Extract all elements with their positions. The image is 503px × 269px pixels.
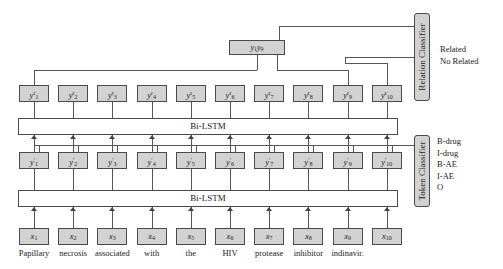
token-node-4: y′4 xyxy=(137,152,167,169)
arrow-token-to-bilstm-10 xyxy=(384,135,390,139)
relation-node-5: yr5 xyxy=(176,85,206,102)
wire-y10-into-classifier xyxy=(345,57,414,58)
wire-token-tap-4 xyxy=(157,145,158,152)
wire-y9-into-combo xyxy=(277,55,278,70)
wire-token-bus xyxy=(34,145,422,146)
bilstm-upper: Bi-LSTM xyxy=(18,118,398,135)
bilstm-lower: Bi-LSTM xyxy=(18,190,398,207)
arrow-token-to-bilstm-2 xyxy=(70,135,76,139)
arrow-input-to-bilstm-3 xyxy=(109,207,115,211)
wire-y10-right xyxy=(345,63,387,64)
word-label-6: HIV xyxy=(222,248,237,258)
wire-bilstm-to-token-8 xyxy=(308,169,309,190)
wire-y1-into-combo xyxy=(257,55,258,70)
wire-token-tap-7 xyxy=(274,145,275,152)
wire-y1-right xyxy=(34,70,257,71)
wire-token-tap-5 xyxy=(196,145,197,152)
diagram-canvas: y1y9 yr1yr2yr3yr4yr5yr6yr7yr8yr9yr10 Bi-… xyxy=(0,0,503,269)
input-node-9: x9 xyxy=(333,228,363,245)
wire-y9-right xyxy=(277,70,348,71)
token-classifier-box: Token Classifier xyxy=(414,135,430,207)
token-output-1: B-drug xyxy=(437,136,461,148)
relation-classifier-outputs: RelatedNo Related xyxy=(440,44,478,67)
wire-token-tap-2 xyxy=(78,145,79,152)
wire-token-tap-6 xyxy=(235,145,236,152)
relation-node-9: yr9 xyxy=(333,85,363,102)
wire-bilstm-to-token-3 xyxy=(112,169,113,190)
word-label-8: inhibitor xyxy=(294,248,323,258)
relation-classifier-box: Relation Classifier xyxy=(414,13,430,101)
word-label-2: necrosis xyxy=(59,248,87,258)
token-output-4: I-AE xyxy=(437,171,461,183)
wire-combo-right xyxy=(279,26,422,27)
arrow-input-to-bilstm-9 xyxy=(345,207,351,211)
relation-node-10: yr10 xyxy=(372,85,402,102)
relation-node-1: yr1 xyxy=(19,85,49,102)
wire-token-tap-9 xyxy=(353,145,354,152)
arrow-token-to-bilstm-5 xyxy=(188,135,194,139)
wire-bilstm-to-relation-5 xyxy=(191,102,192,118)
arrow-token-to-bilstm-4 xyxy=(149,135,155,139)
arrow-token-to-bilstm-9 xyxy=(345,135,351,139)
input-node-5: x5 xyxy=(176,228,206,245)
wire-bilstm-to-relation-2 xyxy=(73,102,74,118)
wire-bilstm-to-token-5 xyxy=(191,169,192,190)
arrow-input-to-bilstm-5 xyxy=(188,207,194,211)
wire-y10-up xyxy=(387,63,388,85)
word-label-1: Papillary xyxy=(19,248,50,258)
relation-output-1: Related xyxy=(440,44,478,56)
relation-node-2: yr2 xyxy=(58,85,88,102)
wire-bilstm-to-relation-7 xyxy=(269,102,270,118)
input-node-6: x6 xyxy=(215,228,245,245)
word-label-5: the xyxy=(186,248,196,258)
word-label-7: protease xyxy=(255,248,283,258)
token-classifier-outputs: B-drugI-drugB-AEI-AEO xyxy=(437,136,461,194)
arrow-token-to-bilstm-8 xyxy=(305,135,311,139)
wire-bilstm-to-relation-8 xyxy=(308,102,309,118)
arrow-input-to-bilstm-10 xyxy=(384,207,390,211)
wire-bilstm-to-relation-10 xyxy=(387,102,388,118)
input-node-7: x7 xyxy=(254,228,284,245)
wire-token-tap-3 xyxy=(117,145,118,152)
arrow-token-to-bilstm-6 xyxy=(227,135,233,139)
arrow-token-to-bilstm-3 xyxy=(109,135,115,139)
wire-y1-up xyxy=(34,70,35,85)
token-classifier-label: Token Classifier xyxy=(417,141,427,200)
arrow-input-to-bilstm-1 xyxy=(31,207,37,211)
token-output-5: O xyxy=(437,182,461,194)
wire-bilstm-to-token-2 xyxy=(73,169,74,190)
relation-classifier-label: Relation Classifier xyxy=(417,23,427,90)
combined-entity-node: y1y9 xyxy=(229,40,285,55)
word-label-9: indinavir. xyxy=(331,248,363,258)
input-node-3: x3 xyxy=(97,228,127,245)
arrow-input-to-bilstm-4 xyxy=(149,207,155,211)
wire-combo-up xyxy=(279,26,280,40)
relation-node-3: yr3 xyxy=(97,85,127,102)
relation-node-4: yr4 xyxy=(137,85,167,102)
token-node-1: y′1 xyxy=(19,152,49,169)
wire-bilstm-to-relation-4 xyxy=(152,102,153,118)
token-output-3: B-AE xyxy=(437,159,461,171)
token-output-2: I-drug xyxy=(437,148,461,160)
relation-node-7: yr7 xyxy=(254,85,284,102)
input-node-4: x4 xyxy=(137,228,167,245)
relation-node-8: yr8 xyxy=(293,85,323,102)
arrow-token-to-bilstm-1 xyxy=(31,135,37,139)
wire-token-tap-10 xyxy=(392,145,393,152)
word-label-4: with xyxy=(144,248,159,258)
token-node-5: y′5 xyxy=(176,152,206,169)
input-node-10: x10 xyxy=(372,228,402,245)
word-label-3: associated xyxy=(95,248,130,258)
wire-bilstm-to-token-6 xyxy=(230,169,231,190)
wire-bilstm-to-token-4 xyxy=(152,169,153,190)
token-node-7: y′7 xyxy=(254,152,284,169)
token-node-2: y′2 xyxy=(58,152,88,169)
relation-output-2: No Related xyxy=(440,56,478,68)
relation-node-6: yr6 xyxy=(215,85,245,102)
token-node-10: y′10 xyxy=(372,152,402,169)
arrow-input-to-bilstm-7 xyxy=(266,207,272,211)
arrow-input-to-bilstm-2 xyxy=(70,207,76,211)
token-node-8: y′8 xyxy=(293,152,323,169)
wire-token-tap-8 xyxy=(313,145,314,152)
token-node-6: y′6 xyxy=(215,152,245,169)
